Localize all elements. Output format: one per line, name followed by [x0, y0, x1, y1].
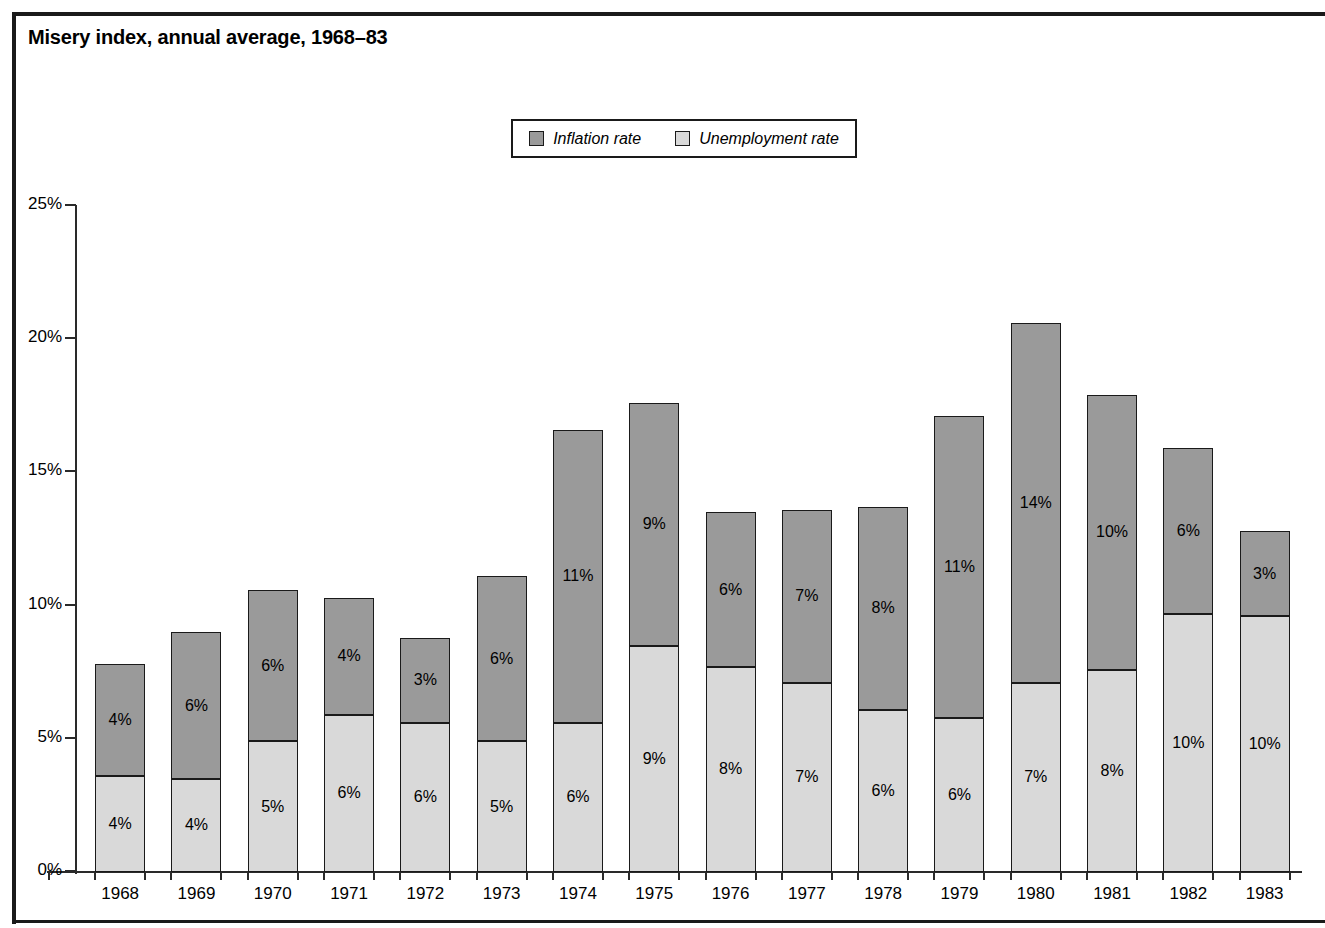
y-axis-tick-mark [65, 870, 76, 872]
bar-segment-inflation[interactable]: 6% [706, 512, 756, 667]
bar-segment-inflation[interactable]: 3% [400, 638, 450, 723]
legend-label-inflation: Inflation rate [553, 130, 641, 148]
bar-segment-unemployment[interactable]: 7% [1011, 683, 1061, 872]
x-axis-tick-label: 1983 [1220, 884, 1310, 904]
x-axis-tick-mark [1289, 872, 1291, 880]
bar-segment-inflation[interactable]: 6% [248, 590, 298, 742]
bar-segment-unemployment[interactable]: 4% [95, 776, 145, 872]
bar-value-label: 7% [795, 769, 818, 785]
bar-segment-inflation[interactable]: 7% [782, 510, 832, 683]
bar-value-label: 10% [1096, 524, 1128, 540]
bar-segment-unemployment[interactable]: 6% [553, 723, 603, 872]
bar-group[interactable]: 7%14% [1011, 323, 1061, 872]
bar-segment-unemployment[interactable]: 6% [400, 723, 450, 872]
x-axis-tick-mark [1060, 872, 1062, 880]
bar-segment-inflation[interactable]: 4% [95, 664, 145, 776]
bar-group[interactable]: 6%11% [934, 416, 984, 872]
bar-segment-unemployment[interactable]: 6% [858, 710, 908, 873]
bar-group[interactable]: 6%8% [858, 507, 908, 872]
bar-segment-inflation[interactable]: 3% [1240, 531, 1290, 616]
legend-entry-inflation: Inflation rate [529, 130, 641, 148]
bar-segment-inflation[interactable]: 8% [858, 507, 908, 709]
x-axis-tick-mark [602, 872, 604, 880]
bar-value-label: 5% [261, 799, 284, 815]
bar-segment-unemployment[interactable]: 5% [477, 741, 527, 872]
bar-group[interactable]: 7%7% [782, 510, 832, 872]
x-axis-tick-mark [323, 872, 325, 880]
bar-segment-unemployment[interactable]: 7% [782, 683, 832, 872]
bar-segment-inflation[interactable]: 6% [1163, 448, 1213, 613]
y-axis-tick-label: 15% [14, 460, 62, 480]
bar-segment-unemployment[interactable]: 8% [1087, 670, 1137, 872]
bar-segment-inflation[interactable]: 11% [934, 416, 984, 717]
y-axis-tick-mark [65, 337, 76, 339]
x-axis-tick-mark [1162, 872, 1164, 880]
frame-bottom-rule [12, 920, 1325, 923]
x-axis-tick-mark [552, 872, 554, 880]
bar-segment-inflation[interactable]: 10% [1087, 395, 1137, 669]
x-axis-tick-mark [1212, 872, 1214, 880]
x-axis-tick-mark [449, 872, 451, 880]
bar-group[interactable]: 5%6% [248, 590, 298, 872]
bar-segment-unemployment[interactable]: 4% [171, 779, 221, 872]
x-axis-tick-mark [628, 872, 630, 880]
bar-group[interactable]: 8%6% [706, 512, 756, 872]
bar-segment-unemployment[interactable]: 9% [629, 646, 679, 872]
bar-group[interactable]: 9%9% [629, 403, 679, 872]
x-axis-tick-mark [1136, 872, 1138, 880]
bar-value-label: 6% [719, 582, 742, 598]
x-axis-tick-mark [781, 872, 783, 880]
x-axis-tick-mark [220, 872, 222, 880]
bar-segment-inflation[interactable]: 6% [171, 632, 221, 779]
bar-segment-inflation[interactable]: 6% [477, 576, 527, 741]
bar-segment-unemployment[interactable]: 8% [706, 667, 756, 872]
x-axis-tick-mark [857, 872, 859, 880]
bar-value-label: 11% [944, 559, 975, 575]
x-axis-origin-tick-mark [48, 872, 50, 880]
bar-segment-unemployment[interactable]: 5% [248, 741, 298, 872]
bar-value-label: 9% [643, 516, 666, 532]
x-axis-tick-mark [297, 872, 299, 880]
bar-segment-unemployment[interactable]: 10% [1163, 614, 1213, 872]
bar-segment-inflation[interactable]: 9% [629, 403, 679, 645]
plot-area: 4%4%4%6%5%6%6%4%6%3%5%6%6%11%9%9%8%6%7%7… [76, 205, 1291, 872]
x-axis-tick-mark [170, 872, 172, 880]
x-axis-tick-mark [907, 872, 909, 880]
bar-group[interactable]: 6%3% [400, 638, 450, 872]
x-axis-tick-mark [144, 872, 146, 880]
frame-top-rule [12, 12, 1325, 16]
bar-group[interactable]: 6%11% [553, 430, 603, 872]
bar-value-label: 5% [490, 799, 513, 815]
bar-group[interactable]: 6%4% [324, 598, 374, 872]
bar-group[interactable]: 4%4% [95, 664, 145, 872]
bar-segment-inflation[interactable]: 4% [324, 598, 374, 715]
bar-value-label: 8% [1100, 763, 1123, 779]
bar-value-label: 6% [566, 789, 589, 805]
bar-value-label: 8% [719, 761, 742, 777]
x-axis-tick-mark [526, 872, 528, 880]
x-axis-tick-mark [705, 872, 707, 880]
bar-segment-inflation[interactable]: 14% [1011, 323, 1061, 683]
bar-value-label: 7% [795, 588, 818, 604]
bar-segment-unemployment[interactable]: 6% [934, 718, 984, 873]
x-axis-tick-mark [1086, 872, 1088, 880]
chart-legend: Inflation rate Unemployment rate [511, 119, 857, 158]
bar-value-label: 7% [1024, 769, 1047, 785]
bar-group[interactable]: 5%6% [477, 576, 527, 872]
x-axis-tick-mark [247, 872, 249, 880]
bar-segment-unemployment[interactable]: 10% [1240, 616, 1290, 872]
x-axis-tick-mark [373, 872, 375, 880]
y-axis-tick-mark [65, 204, 76, 206]
bar-value-label: 6% [948, 787, 971, 803]
bar-group[interactable]: 10%3% [1240, 531, 1290, 872]
bar-segment-unemployment[interactable]: 6% [324, 715, 374, 872]
bar-segment-inflation[interactable]: 11% [553, 430, 603, 723]
bar-value-label: 4% [109, 712, 132, 728]
legend-entry-unemployment: Unemployment rate [675, 130, 839, 148]
bar-group[interactable]: 4%6% [171, 632, 221, 872]
bar-group[interactable]: 8%10% [1087, 395, 1137, 872]
chart-title: Misery index, annual average, 1968–83 [28, 26, 387, 49]
bar-value-label: 6% [872, 783, 895, 799]
bar-value-label: 4% [185, 817, 208, 833]
bar-group[interactable]: 10%6% [1163, 448, 1213, 872]
